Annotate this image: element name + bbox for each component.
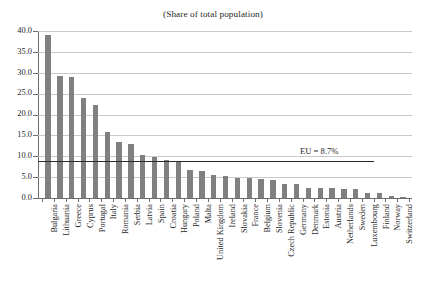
x-axis-label-romania: Romania: [122, 204, 130, 234]
bar: [93, 105, 98, 198]
bar: [341, 189, 346, 198]
bar: [57, 76, 62, 198]
x-axis-tick: [172, 199, 173, 202]
x-axis-label-greece: Greece: [75, 204, 83, 228]
x-axis-label-portugal: Portugal: [99, 204, 107, 232]
x-axis-label-italy: Italy: [110, 204, 118, 219]
x-axis-label-norway: Norway: [394, 204, 402, 231]
x-axis-tick: [397, 199, 398, 202]
x-axis-tick: [326, 199, 327, 202]
bar: [318, 188, 323, 198]
y-axis-tick: [33, 94, 38, 95]
x-axis-label-spain: Spain: [158, 204, 166, 223]
x-axis-tick: [101, 199, 102, 202]
x-axis-label-lithuania: Lithuania: [63, 204, 71, 236]
bar: [247, 178, 252, 198]
x-axis-line: [38, 198, 412, 199]
bar: [258, 179, 263, 198]
x-axis-label-slovenia: Slovenia: [276, 204, 284, 233]
y-axis-labels: 0.05.010.015.020.025.030.035.040.0: [0, 0, 32, 298]
bar: [152, 157, 157, 198]
x-axis-label-slovakia: Slovakia: [241, 204, 249, 233]
chart-title: (Share of total population): [0, 9, 426, 19]
x-axis-tick: [113, 199, 114, 202]
y-axis-tick-label: 20.0: [2, 110, 32, 118]
x-axis-tick: [338, 199, 339, 202]
y-axis-tick-label: 25.0: [2, 89, 32, 97]
bar: [116, 142, 121, 198]
bar: [223, 176, 228, 198]
x-axis-tick: [291, 199, 292, 202]
bar: [164, 160, 169, 198]
x-axis-tick: [149, 199, 150, 202]
x-axis-label-united-kingdom: United Kingdom: [217, 204, 225, 260]
x-axis-tick: [54, 199, 55, 202]
y-axis-tick-label: 5.0: [2, 173, 32, 181]
x-axis-tick: [78, 199, 79, 202]
figure-container: (Share of total population) 0.05.010.015…: [0, 0, 426, 298]
x-axis-label-ireland: Ireland: [229, 204, 237, 228]
x-axis-tick: [267, 199, 268, 202]
y-axis-tick: [33, 31, 38, 32]
bar-series: [38, 31, 412, 198]
x-axis-label-serbia: Serbia: [134, 204, 142, 225]
x-axis-label-luxembourg: Luxembourg: [371, 204, 379, 247]
y-axis-tick: [33, 73, 38, 74]
x-axis-tick: [160, 199, 161, 202]
y-axis-tick-label: 10.0: [2, 152, 32, 160]
x-axis-tick: [362, 199, 363, 202]
x-axis-tick: [243, 199, 244, 202]
y-axis-tick: [33, 52, 38, 53]
x-axis-tick: [125, 199, 126, 202]
bar: [69, 77, 74, 198]
y-axis-tick-label: 0.0: [2, 194, 32, 202]
bar: [176, 161, 181, 198]
y-axis-tick: [33, 198, 38, 199]
x-axis-tick: [255, 199, 256, 202]
x-axis-label-finland: Finland: [383, 204, 391, 229]
bar: [353, 189, 358, 198]
bar: [105, 132, 110, 198]
bar: [45, 35, 50, 198]
x-axis-label-poland: Poland: [193, 204, 201, 227]
x-axis-label-denmark: Denmark: [312, 204, 320, 235]
x-axis-tick: [137, 199, 138, 202]
bar: [294, 184, 299, 198]
y-axis-tick-label: 15.0: [2, 131, 32, 139]
bar: [270, 180, 275, 198]
x-axis-tick: [232, 199, 233, 202]
x-axis-label-netherlands: Netherlands: [347, 204, 355, 244]
x-axis-tick: [409, 199, 410, 202]
y-axis-tick-label: 35.0: [2, 48, 32, 56]
bar: [329, 188, 334, 198]
eu-average-label: EU = 8.7%: [300, 146, 339, 156]
x-axis-tick: [89, 199, 90, 202]
y-axis-tick-label: 40.0: [2, 27, 32, 35]
x-axis-label-austria: Austria: [335, 204, 343, 228]
x-axis-tick: [350, 199, 351, 202]
bar: [306, 188, 311, 198]
x-axis-label-cyprus: Cyprus: [87, 204, 95, 228]
x-axis-label-switzerland: Switzerland: [406, 204, 414, 244]
x-axis-tick: [385, 199, 386, 202]
x-axis-label-hungary: Hungary: [181, 204, 189, 233]
x-axis-tick: [208, 199, 209, 202]
x-axis-tick: [184, 199, 185, 202]
x-axis-tick: [66, 199, 67, 202]
bar: [81, 98, 86, 198]
x-axis-label-malta: Malta: [205, 204, 213, 223]
x-axis-tick: [303, 199, 304, 202]
bar: [211, 175, 216, 198]
x-axis-tick: [374, 199, 375, 202]
y-axis-tick: [33, 115, 38, 116]
x-axis-tick: [42, 199, 43, 202]
x-axis-label-france: France: [252, 204, 260, 227]
x-axis-label-czech-republic: Czech Republic: [288, 204, 296, 257]
y-axis-tick: [33, 156, 38, 157]
x-axis-tick: [279, 199, 280, 202]
x-axis-label-latvia: Latvia: [146, 204, 154, 225]
x-axis-label-germany: Germany: [300, 204, 308, 235]
bar: [187, 170, 192, 198]
bar: [282, 184, 287, 198]
bar: [128, 144, 133, 198]
